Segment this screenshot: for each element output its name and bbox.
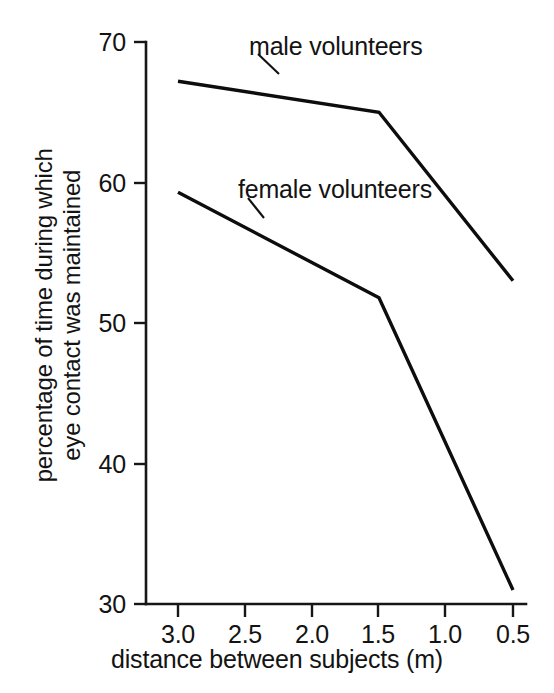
series-line-female xyxy=(178,192,513,590)
y-tick-label-70: 70 xyxy=(68,28,126,57)
x-axis-title: distance between subjects (m) xyxy=(0,645,554,674)
y-tick-label-30: 30 xyxy=(68,590,126,619)
y-axis-title: percentage of time during which eye cont… xyxy=(30,100,87,530)
y-axis-title-line-1: percentage of time during which xyxy=(30,100,58,530)
series-label-male: male volunteers xyxy=(249,32,422,61)
series-label-female: female volunteers xyxy=(238,175,432,204)
y-axis-title-line-2: eye contact was maintained xyxy=(58,100,86,530)
chart-figure: 70 60 50 40 30 3.0 2.5 2.0 1.5 1.0 0.5 m… xyxy=(0,0,554,693)
